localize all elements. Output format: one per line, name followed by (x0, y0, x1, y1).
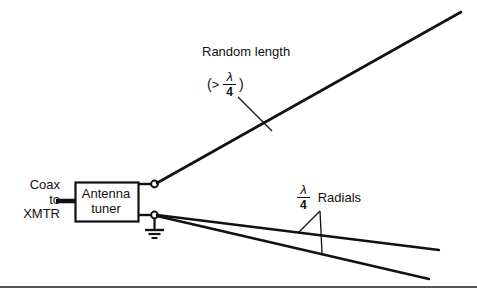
radials-label: λ 4 Radials (294, 183, 361, 211)
condition-operator: > (212, 77, 221, 92)
random-length-condition: ( > λ 4 ) (207, 70, 244, 98)
antenna-diagram: Coax to XMTR Antenna tuner Random length… (0, 0, 477, 299)
random-length-label: Random length (202, 45, 290, 60)
coax-feed-label: Coax to XMTR (4, 178, 60, 222)
radials-fraction-denominator-four: 4 (297, 197, 310, 211)
antenna-tuner-label-line2: tuner (74, 202, 138, 217)
coax-feed-label-line1: Coax (4, 178, 60, 193)
radials-label-text: Radials (313, 190, 361, 205)
random-length-leader-line (238, 97, 272, 131)
fraction-numerator-lambda: λ (224, 70, 234, 84)
fraction-denominator-four: 4 (223, 84, 236, 98)
radials-leader-line-lower (320, 211, 322, 253)
earth-ground-icon (145, 218, 164, 238)
coax-feed-label-line3: XMTR (4, 207, 60, 222)
condition-close-paren: ) (239, 76, 244, 92)
quarter-wavelength-fraction: λ 4 (223, 70, 236, 98)
random-length-wire (157, 12, 461, 183)
radial-wire-lower (157, 216, 429, 279)
radials-quarter-wavelength-fraction: λ 4 (297, 183, 310, 211)
coax-feed-label-line2: to (4, 193, 60, 208)
radials-fraction-numerator-lambda: λ (298, 183, 308, 197)
antenna-tuner-label-line1: Antenna (74, 187, 138, 202)
antenna-tuner-label: Antenna tuner (74, 187, 138, 216)
radials-leader-line-upper (298, 211, 320, 233)
